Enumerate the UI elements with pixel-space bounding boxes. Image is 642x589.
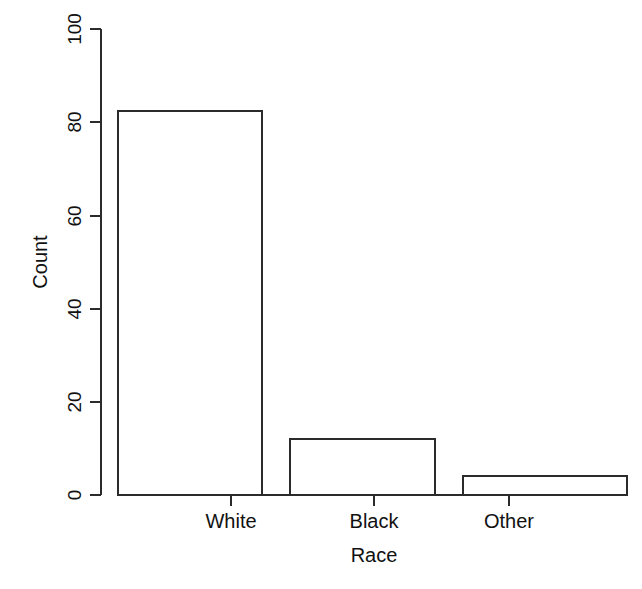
bar-white[interactable]: [118, 111, 262, 495]
bar-chart-plot: 0 20 40 60 80 100 Count White Black: [0, 0, 642, 589]
bar-other[interactable]: [463, 476, 627, 495]
chart-page: 0 20 40 60 80 100 Count White Black: [0, 0, 642, 589]
plot-background: [0, 0, 642, 589]
x-tick-label-black: Black: [350, 510, 400, 532]
y-tick-label-0: 0: [64, 490, 85, 501]
bar-black[interactable]: [290, 439, 435, 495]
y-tick-label-20: 20: [64, 391, 85, 412]
y-axis-title: Count: [29, 235, 51, 289]
y-tick-label-60: 60: [64, 205, 85, 226]
x-tick-label-other: Other: [484, 510, 534, 532]
x-tick-label-white: White: [205, 510, 256, 532]
y-tick-label-80: 80: [64, 111, 85, 132]
x-axis-title: Race: [351, 544, 398, 566]
y-tick-label-40: 40: [64, 298, 85, 319]
y-tick-label-100: 100: [64, 13, 85, 45]
